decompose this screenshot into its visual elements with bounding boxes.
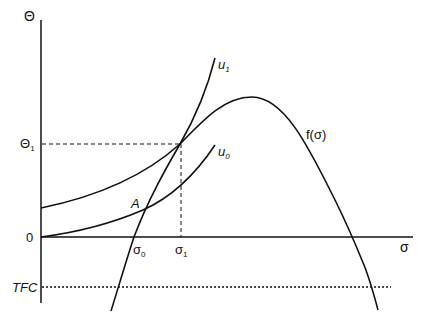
tfc-label: TFC <box>12 281 37 294</box>
y-axis-label: Θ <box>24 9 35 23</box>
u0-label: u0 <box>218 145 230 161</box>
theta1-label: Θ1 <box>20 137 35 153</box>
sigma1-label: σ1 <box>175 243 187 259</box>
diagram-canvas <box>0 0 426 336</box>
point-a-label: A <box>131 197 140 210</box>
f-sigma-label: f(σ) <box>306 128 326 141</box>
u0-curve <box>41 145 215 237</box>
x-axis-label: σ <box>400 240 409 254</box>
sigma0-label: σ0 <box>133 243 145 259</box>
origin-label: 0 <box>26 231 33 244</box>
f-sigma-curve <box>41 97 378 310</box>
u1-label: u1 <box>218 58 230 74</box>
u1-curve <box>111 58 215 311</box>
